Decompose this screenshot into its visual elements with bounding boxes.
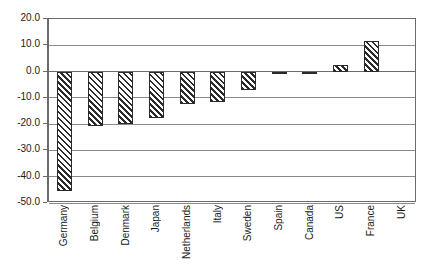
x-tick-label: Sweden [242,205,253,241]
y-tick-label: -20.0 [17,118,40,128]
y-axis-tick-labels: 20.010.00.0-10.0-20.0-30.0-40.0-50.0 [0,0,44,280]
y-tick-mark [43,202,47,203]
bar-france [364,41,379,72]
bar-italy [210,72,225,102]
plot-area [48,18,416,202]
y-tick-label: -30.0 [17,144,40,154]
x-tick-label: Netherlands [181,205,192,259]
bar-canada [302,72,317,74]
x-tick-label: Spain [273,205,284,231]
x-tick-label: Germany [58,205,69,246]
bar-chart: 20.010.00.0-10.0-20.0-30.0-40.0-50.0 Ger… [0,0,438,280]
bar-belgium [88,72,103,127]
bar-japan [149,72,164,119]
y-tick-mark [43,71,47,72]
y-tick-label: -40.0 [17,171,40,181]
x-tick-label: UK [396,205,407,219]
x-tick-label: Italy [212,205,223,223]
x-tick-label: Canada [304,205,315,240]
y-tick-mark [43,97,47,98]
y-tick-mark [43,149,47,150]
bars-group [49,19,415,201]
bar-sweden [241,72,256,90]
y-tick-label: -10.0 [17,92,40,102]
y-tick-label: 0.0 [26,66,40,76]
bar-netherlands [180,72,195,104]
y-tick-label: 20.0 [21,13,40,23]
y-tick-mark [43,44,47,45]
y-tick-label: 10.0 [21,39,40,49]
bar-us [333,65,348,72]
y-tick-mark [43,176,47,177]
x-axis-tick-labels: GermanyBelgiumDenmarkJapanNetherlandsIta… [48,203,416,280]
y-tick-mark [43,123,47,124]
x-tick-label: Denmark [120,205,131,246]
x-tick-label: Japan [150,205,161,232]
y-tick-mark [43,18,47,19]
x-tick-label: Belgium [89,205,100,241]
bar-spain [272,72,287,74]
bar-germany [57,72,72,192]
y-tick-label: -50.0 [17,197,40,207]
x-tick-label: France [365,205,376,236]
bar-denmark [118,72,133,124]
x-tick-label: US [334,205,345,219]
